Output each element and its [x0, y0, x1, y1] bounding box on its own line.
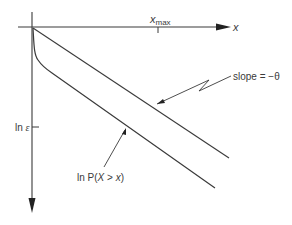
tail-probability-curve: [33, 28, 215, 188]
y-axis-arrow-icon: [29, 198, 36, 213]
x-axis-arrow-icon: [216, 24, 231, 31]
slope-line: [33, 28, 229, 158]
curve-label: ln P(X > x): [77, 172, 124, 183]
x-max-label: xmax: [149, 13, 171, 27]
curve-leader-arrow-icon: [122, 128, 126, 135]
curve-leader-line: [104, 130, 125, 167]
ln-epsilon-label: ln ε: [15, 122, 30, 133]
slope-leader-arrow-icon: [157, 99, 165, 104]
slope-label: slope = −θ: [233, 71, 280, 82]
x-axis-label: x: [232, 21, 239, 33]
diagram-canvas: x xmax ln ε slope = −θ ln P(X > x): [0, 0, 292, 225]
slope-leader-line: [157, 76, 231, 104]
